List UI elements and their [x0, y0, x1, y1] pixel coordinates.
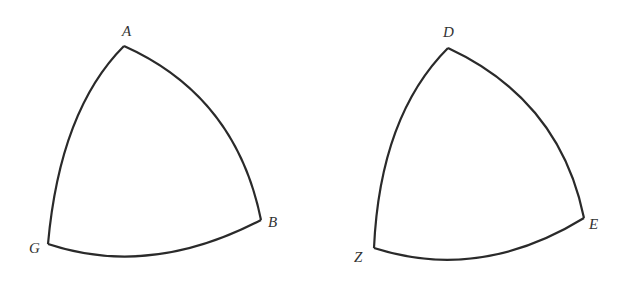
- vertex-label-a: A: [121, 23, 132, 39]
- arc-zd: [374, 48, 448, 248]
- arc-bg: [48, 220, 261, 257]
- triangle-abg: A B G: [29, 23, 277, 257]
- vertex-label-b: B: [268, 214, 277, 230]
- vertex-label-g: G: [29, 240, 40, 256]
- arc-ab: [124, 46, 261, 220]
- vertex-label-d: D: [442, 24, 454, 40]
- vertex-label-e: E: [588, 216, 598, 232]
- spherical-triangles-figure: A B G D E Z: [0, 0, 626, 281]
- arc-de: [448, 48, 584, 218]
- vertex-label-z: Z: [354, 249, 363, 265]
- arc-ga: [48, 46, 124, 244]
- triangle-dez: D E Z: [354, 24, 598, 265]
- arc-ez: [374, 218, 584, 260]
